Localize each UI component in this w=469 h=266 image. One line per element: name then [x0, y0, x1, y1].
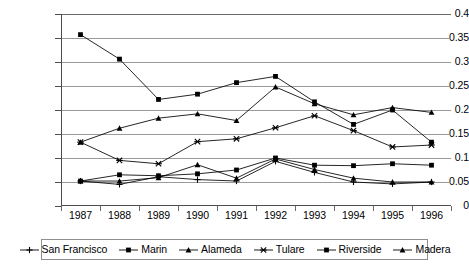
- legend-label: San Francisco: [42, 244, 108, 255]
- legend-item-alameda[interactable]: Alameda: [178, 244, 242, 255]
- x-tick-mark: [139, 206, 140, 211]
- x-tick-mark: [334, 206, 335, 211]
- gridline: [62, 182, 451, 183]
- x-tick-mark: [451, 206, 452, 211]
- legend-marker-plus-icon: [19, 245, 40, 255]
- legend-label: Marin: [141, 244, 167, 255]
- x-tick-mark: [256, 206, 257, 211]
- gridline: [62, 62, 451, 63]
- data-point-plus: [26, 246, 32, 252]
- data-point-filled-square: [324, 247, 329, 252]
- legend-marker-filled-triangle-icon: [392, 245, 413, 255]
- x-tick-mark: [217, 206, 218, 211]
- legend-item-tulare[interactable]: Tulare: [253, 244, 305, 255]
- data-point-square: [126, 247, 131, 252]
- legend-marker-filled-square-icon: [316, 245, 337, 255]
- legend-label: Riverside: [339, 244, 382, 255]
- x-tick-mark: [100, 206, 101, 211]
- gridline: [62, 134, 451, 135]
- gridline: [62, 110, 451, 111]
- x-tick-label: 1996: [405, 210, 459, 221]
- x-tick-mark: [295, 206, 296, 211]
- legend: San FranciscoMarinAlamedaTulareRiverside…: [41, 239, 428, 260]
- legend-item-riverside[interactable]: Riverside: [316, 244, 382, 255]
- legend-marker-square-icon: [118, 245, 139, 255]
- legend-label: Alameda: [201, 244, 242, 255]
- gridline: [62, 86, 451, 87]
- gridline: [62, 14, 451, 15]
- plot-area: [61, 14, 451, 206]
- legend-marker-cross-icon: [253, 245, 274, 255]
- gridline: [62, 158, 451, 159]
- legend-label: Tulare: [276, 244, 305, 255]
- x-tick-mark: [61, 206, 62, 211]
- legend-item-marin[interactable]: Marin: [118, 244, 167, 255]
- legend-label: Madera: [415, 244, 450, 255]
- line-chart: 00.050.10.150.20.250.30.350.4 1987198819…: [0, 0, 469, 266]
- legend-marker-triangle-icon: [178, 245, 199, 255]
- x-tick-mark: [412, 206, 413, 211]
- legend-item-madera[interactable]: Madera: [392, 244, 450, 255]
- x-tick-mark: [178, 206, 179, 211]
- data-point-cross: [260, 247, 267, 252]
- gridline: [62, 38, 451, 39]
- legend-item-san-francisco[interactable]: San Francisco: [19, 244, 108, 255]
- x-tick-mark: [373, 206, 374, 211]
